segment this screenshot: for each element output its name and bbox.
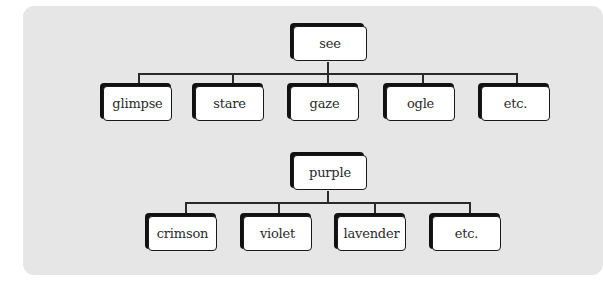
node-stare: stare — [192, 83, 263, 119]
connector-drop — [469, 202, 471, 213]
node-label: lavender — [337, 216, 406, 251]
node-label: glimpse — [103, 86, 172, 121]
node-crimson: crimson — [145, 213, 216, 249]
connector-drop — [516, 73, 518, 83]
node-label: gaze — [290, 86, 359, 121]
node-label: crimson — [148, 216, 217, 251]
node-label: etc. — [432, 216, 501, 251]
node-glimpse: glimpse — [100, 83, 171, 119]
node-root-purple: purple — [290, 152, 364, 188]
connector-drop — [232, 73, 234, 83]
node-lavender: lavender — [334, 213, 405, 249]
node-violet: violet — [240, 213, 311, 249]
connector-vertical — [327, 191, 329, 202]
node-etc: etc. — [429, 213, 500, 249]
connector-drop — [327, 73, 329, 83]
connector-vertical — [327, 62, 329, 73]
node-label: ogle — [386, 86, 455, 121]
connector-drop — [374, 202, 376, 213]
node-label: etc. — [481, 86, 550, 121]
node-label: purple — [293, 155, 367, 190]
node-root-see: see — [290, 23, 364, 59]
connector-drop — [138, 73, 140, 83]
node-gaze: gaze — [287, 83, 358, 119]
node-ogle: ogle — [383, 83, 454, 119]
node-label: violet — [243, 216, 312, 251]
connector-drop — [185, 202, 187, 213]
node-label: stare — [195, 86, 264, 121]
connector-drop — [278, 202, 280, 213]
connector-horizontal — [185, 202, 470, 204]
connector-drop — [422, 73, 424, 83]
node-label: see — [293, 26, 367, 61]
node-etc: etc. — [478, 83, 549, 119]
